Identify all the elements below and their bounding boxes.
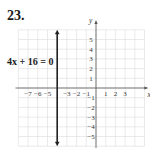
svg-text:x: x xyxy=(146,90,150,99)
svg-text:−7: −7 xyxy=(24,90,32,98)
svg-text:1: 1 xyxy=(89,75,93,83)
svg-text:−1: −1 xyxy=(87,94,95,102)
svg-text:−3: −3 xyxy=(87,114,95,122)
svg-text:3: 3 xyxy=(123,90,127,98)
tick-labels: −7−6−5−3−2−112354321−1−2−3−4−5 xyxy=(24,36,127,141)
equation-label: 4x + 16 = 0 xyxy=(7,56,53,67)
svg-text:1: 1 xyxy=(104,90,108,98)
svg-text:y: y xyxy=(88,16,93,25)
axes: xy xyxy=(15,16,150,148)
svg-text:−3: −3 xyxy=(63,90,71,98)
svg-text:−2: −2 xyxy=(87,104,95,112)
svg-text:2: 2 xyxy=(89,65,93,73)
coordinate-plane: xy −7−6−5−3−2−112354321−1−2−3−4−5 xyxy=(0,0,150,150)
svg-text:−6: −6 xyxy=(34,90,42,98)
svg-text:−5: −5 xyxy=(87,133,95,141)
svg-text:−4: −4 xyxy=(87,123,95,131)
svg-text:3: 3 xyxy=(89,55,93,63)
svg-text:4: 4 xyxy=(89,46,93,54)
svg-text:2: 2 xyxy=(114,90,118,98)
svg-text:5: 5 xyxy=(89,36,93,44)
svg-text:−2: −2 xyxy=(73,90,81,98)
svg-text:−5: −5 xyxy=(44,90,52,98)
